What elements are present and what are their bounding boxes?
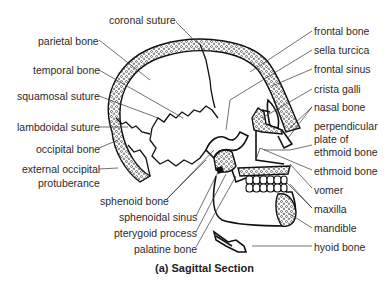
- skull-sagittal-diagram: coronal suture parietal bone temporal bo…: [0, 0, 389, 288]
- label-nasal-bone: nasal bone: [314, 101, 365, 113]
- hard-palate: [238, 166, 290, 176]
- label-parietal-bone: parietal bone: [38, 35, 99, 47]
- label-maxilla: maxilla: [314, 203, 347, 215]
- label-frontal-bone: frontal bone: [314, 25, 369, 37]
- label-perpendicular-plate-1: perpendicular: [314, 120, 378, 132]
- label-occipital-bone: occipital bone: [36, 143, 100, 155]
- hyoid-shape: [214, 232, 246, 252]
- label-squamosal-suture: squamosal suture: [17, 90, 100, 102]
- label-perpendicular-plate-2: plate of: [314, 133, 348, 145]
- label-pterygoid-process: pterygoid process: [114, 227, 197, 239]
- label-external-occipital-protuberance-2: protuberance: [38, 177, 100, 189]
- label-crista-galli: crista galli: [314, 83, 361, 95]
- squamosal-suture-line: [152, 106, 218, 128]
- label-mandible: mandible: [314, 222, 357, 234]
- figure-caption: (a) Sagittal Section: [155, 262, 254, 274]
- label-sphenoidal-sinus: sphenoidal sinus: [119, 211, 197, 223]
- label-external-occipital-protuberance-1: external occipital: [22, 163, 100, 175]
- label-palatine-bone: palatine bone: [134, 243, 197, 255]
- label-ethmoid-bone: ethmoid bone: [314, 165, 378, 177]
- label-coronal-suture: coronal suture: [109, 14, 176, 26]
- label-vomer: vomer: [314, 184, 343, 196]
- coronal-suture-line: [200, 44, 215, 108]
- label-temporal-bone: temporal bone: [33, 64, 100, 76]
- label-frontal-sinus: frontal sinus: [314, 63, 371, 75]
- lower-teeth: [246, 184, 287, 192]
- label-sphenoid-bone: sphenoid bone: [100, 195, 169, 207]
- upper-teeth: [246, 176, 287, 184]
- label-hyoid-bone: hyoid bone: [314, 241, 365, 253]
- label-perpendicular-plate-3: ethmoid bone: [314, 146, 378, 158]
- label-lambdoidal-suture: lambdoidal suture: [17, 121, 100, 133]
- label-sella-turcica: sella turcica: [314, 44, 369, 56]
